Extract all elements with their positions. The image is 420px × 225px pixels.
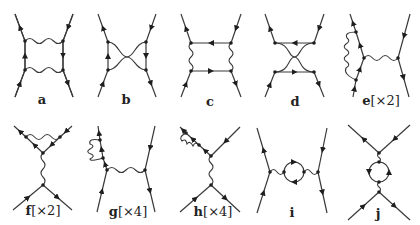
diagram-d [265, 14, 324, 97]
feynman-diagrams-figure [0, 0, 420, 225]
label-e-multiplicity: [×2] [370, 93, 399, 108]
diagram-i [257, 128, 327, 213]
diagram-a [15, 14, 73, 97]
diagram-h [180, 127, 240, 212]
label-d-letter: d [290, 94, 299, 109]
label-h-multiplicity: [×4] [203, 204, 232, 219]
label-c-letter: c [206, 94, 214, 109]
diagram-b [98, 14, 156, 97]
label-a-letter: a [38, 92, 46, 107]
diagram-e [344, 14, 410, 97]
label-j-letter: j [376, 206, 381, 221]
label-c: c [206, 95, 214, 108]
label-f: f[×2] [26, 204, 61, 217]
label-b-letter: b [121, 92, 130, 107]
label-g: g[×4] [109, 205, 147, 218]
diagram-f [13, 126, 72, 210]
label-b: b [121, 93, 130, 106]
label-i-letter: i [290, 205, 295, 220]
diagram-c [181, 14, 241, 97]
label-h: h[×4] [194, 205, 233, 218]
label-e: e[×2] [362, 94, 400, 107]
label-f-multiplicity: [×2] [31, 203, 60, 218]
label-g-letter: g [109, 204, 118, 219]
label-j: j [376, 207, 381, 220]
diagram-g [88, 126, 155, 212]
label-i: i [290, 206, 295, 219]
label-g-multiplicity: [×4] [118, 204, 147, 219]
label-a: a [38, 93, 46, 106]
label-d: d [290, 95, 299, 108]
